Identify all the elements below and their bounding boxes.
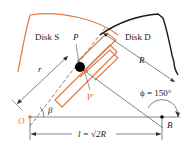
label-beta: β [47, 105, 53, 115]
point-p-prime-dot [84, 69, 88, 73]
p-pointer [76, 44, 79, 63]
label-disk-s: Disk S [35, 32, 59, 42]
p-prime-pointer [85, 73, 90, 90]
slot-centerline [30, 28, 105, 126]
pin-p [75, 62, 85, 72]
disk-s-outline [18, 14, 118, 72]
two-disk-mechanism-diagram: Disk S P Disk D R r P′ β ϕ = 150° O B l … [0, 0, 193, 148]
label-disk-d: Disk D [125, 32, 151, 42]
label-distance: l = √2R [78, 129, 107, 139]
phi-arc [148, 100, 178, 117]
label-b: B [167, 120, 173, 130]
label-o: O [18, 116, 25, 126]
label-r: r [38, 64, 42, 74]
origin-dot [28, 115, 32, 119]
label-big-r: R [138, 55, 145, 65]
point-b-dot [160, 115, 164, 119]
beta-arc [40, 107, 44, 117]
label-p: P [72, 32, 79, 42]
label-phi: ϕ = 150° [140, 88, 172, 98]
label-p-prime: P′ [87, 92, 94, 102]
